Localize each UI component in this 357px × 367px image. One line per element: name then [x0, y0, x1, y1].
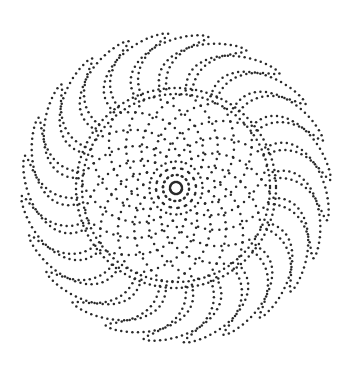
dotted-rosette-figure: [0, 0, 357, 367]
center-disc-lattice: [75, 87, 277, 289]
petal-ring: [20, 32, 331, 343]
dotted-flower-drawing: [0, 0, 357, 367]
